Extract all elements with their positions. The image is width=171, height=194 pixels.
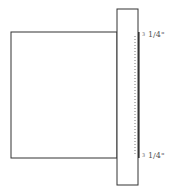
top-marker: 3	[142, 31, 145, 37]
top-dimension-label: 1/4"	[148, 30, 165, 39]
diagram-canvas: 3 1/4" 3 1/4"	[0, 0, 171, 194]
cabinet-box	[11, 32, 117, 158]
overlay-strip	[138, 32, 140, 158]
bottom-marker: 3	[142, 152, 145, 158]
bottom-dimension-label: 1/4"	[148, 151, 165, 160]
